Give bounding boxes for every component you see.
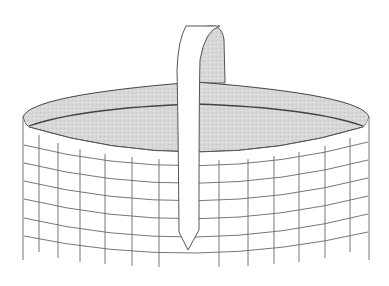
basket-illustration: Woven basket line drawing	[0, 0, 389, 286]
basket-drawing	[0, 0, 389, 286]
